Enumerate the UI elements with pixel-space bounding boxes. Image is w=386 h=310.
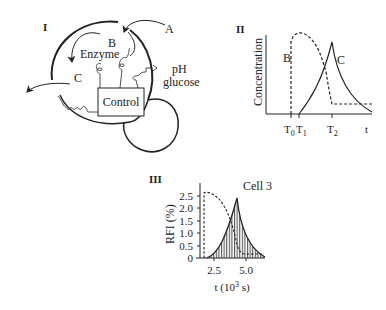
x-axis-label: t (103 s) bbox=[214, 280, 250, 294]
series-label-c: C bbox=[337, 53, 345, 67]
x-tick-label-5-0: 5.0 bbox=[239, 264, 253, 276]
y-axis-label: RFI (%) bbox=[163, 204, 177, 244]
label-c: C bbox=[74, 71, 82, 85]
y-tick-1-0: 1.0 bbox=[179, 227, 193, 239]
shaded-area bbox=[207, 198, 265, 258]
coil-1 bbox=[96, 63, 102, 88]
label-enzyme: Enzyme bbox=[80, 47, 119, 61]
tick-label-t1: T1 bbox=[296, 123, 307, 138]
x-axis-label: t bbox=[365, 123, 368, 135]
coil-3 bbox=[133, 68, 152, 88]
panel-ii-label: II bbox=[236, 23, 245, 35]
label-ph: pH bbox=[172, 62, 187, 76]
label-glucose: glucose bbox=[163, 75, 200, 89]
tick-label-t0: T0 bbox=[284, 123, 295, 138]
curve-c-solid bbox=[299, 42, 372, 114]
y-tick-2-0: 2.0 bbox=[179, 202, 193, 214]
y-tick-0-5: 0.5 bbox=[179, 240, 193, 252]
y-tick-1-5: 1.5 bbox=[179, 215, 193, 227]
y-tick-2-5: 2.5 bbox=[179, 190, 193, 202]
panel-iii-label: III bbox=[149, 173, 162, 185]
chart-title: Cell 3 bbox=[243, 179, 272, 193]
y-tick-0: 0 bbox=[188, 252, 194, 264]
panel-iii-rfi-chart: III Cell 3 2.5 2.0 1.5 1.0 0.5 0 RFI (%)… bbox=[149, 173, 272, 294]
y-axis-label: Concentration bbox=[251, 38, 265, 106]
x-tick-label-2-5: 2.5 bbox=[207, 264, 221, 276]
sensor-fork-icon bbox=[153, 65, 157, 71]
arrow-c-output bbox=[27, 83, 70, 92]
label-control: Control bbox=[103, 95, 140, 109]
label-a: A bbox=[165, 22, 174, 36]
series-label-b: B bbox=[283, 51, 291, 65]
coil-left bbox=[58, 96, 98, 112]
panel-i-label: I bbox=[43, 21, 47, 33]
coil-2 bbox=[119, 48, 130, 88]
panel-ii-concentration-chart: II Concentration B C T0 T1 T2 t bbox=[236, 23, 372, 138]
panel-i-cell-diagram: I A B Enzyme C Control pH glucose bbox=[27, 20, 200, 151]
tick-label-t2: T2 bbox=[327, 123, 338, 138]
y-ticks: 2.5 2.0 1.5 1.0 0.5 0 bbox=[179, 190, 200, 264]
figure-canvas: I A B Enzyme C Control pH glucose bbox=[0, 0, 386, 310]
